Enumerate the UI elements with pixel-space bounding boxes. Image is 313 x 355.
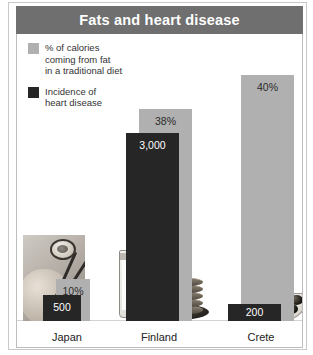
legend: % of calories coming from fat in a tradi…: [28, 42, 122, 118]
bar-japan-incidence-heart-disease: 500: [43, 295, 81, 321]
bar-value-label: 500: [43, 301, 81, 313]
bar-value-label: 3,000: [126, 139, 179, 151]
x-axis-label-crete: Crete: [223, 331, 299, 343]
legend-item-incidence-heart-disease: Incidence of heart disease: [28, 86, 122, 109]
legend-swatch-light-icon: [28, 43, 39, 54]
chart-title-bar: Fats and heart disease: [16, 6, 303, 34]
legend-label: Incidence of heart disease: [45, 86, 102, 109]
bar-crete-pct-calories-fat: 40%: [241, 75, 294, 321]
page-title: Fats and heart disease: [79, 12, 240, 28]
bar-crete-incidence-heart-disease: 200: [228, 304, 281, 321]
plot-panel: % of calories coming from fat in a tradi…: [16, 34, 303, 348]
bar-value-label: 38%: [139, 115, 192, 127]
x-axis-label-japan: Japan: [29, 331, 105, 343]
chart-container: Fats and heart disease % of calories com…: [0, 0, 313, 355]
x-axis-label-finland: Finland: [121, 331, 197, 343]
bar-value-label: 200: [228, 306, 281, 318]
legend-label: % of calories coming from fat in a tradi…: [45, 42, 122, 77]
bar-value-label: 40%: [241, 81, 294, 93]
legend-item-pct-calories-fat: % of calories coming from fat in a tradi…: [28, 42, 122, 77]
legend-swatch-dark-icon: [28, 87, 39, 98]
bar-finland-incidence-heart-disease: 3,000: [126, 133, 179, 321]
